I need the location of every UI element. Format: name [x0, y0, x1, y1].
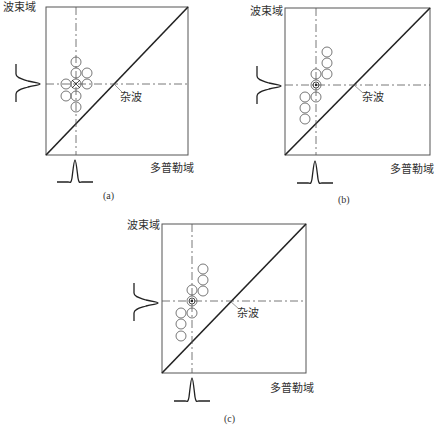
doppler-pattern-icon [174, 378, 210, 401]
doppler-pattern-icon [297, 161, 333, 183]
diagram-graphics: .box { fill: none; stroke: #555; stroke-… [0, 0, 440, 428]
panel-b-graphics [257, 8, 430, 183]
doppler-pattern-icon [57, 160, 93, 182]
panel-c-graphics [134, 224, 306, 401]
clutter-leader-line [230, 301, 239, 309]
clutter-leader-line [354, 85, 363, 93]
beam-pattern-icon [257, 66, 281, 104]
beam-pattern-icon [134, 283, 158, 321]
beam-pattern-icon [16, 64, 40, 102]
clutter-ridge-line [162, 224, 306, 373]
clutter-ridge-line [285, 8, 430, 155]
panel-a-graphics [16, 7, 188, 182]
clutter-ridge-line [46, 7, 188, 155]
clutter-leader-line [114, 84, 122, 92]
